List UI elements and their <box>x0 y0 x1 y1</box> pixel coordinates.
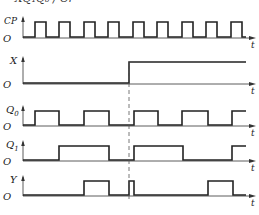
time-label: t <box>251 198 255 208</box>
origin-label: O <box>3 79 11 90</box>
time-label: t <box>251 40 255 50</box>
q0-label: Q0 <box>6 104 19 118</box>
arrow-up-icon <box>21 56 25 62</box>
arrow-up-icon <box>21 175 25 181</box>
origin-label: O <box>3 33 11 44</box>
arrow-up-icon <box>21 105 25 111</box>
origin-label: O <box>3 191 11 202</box>
y-label: Y <box>10 174 18 185</box>
origin-label: O <box>3 121 11 132</box>
origin-label: O <box>3 156 11 167</box>
time-label: t <box>251 128 255 138</box>
y-waveform <box>23 181 246 195</box>
x-label: X <box>9 55 18 66</box>
arrow-up-icon <box>21 16 25 22</box>
cp-waveform <box>23 22 246 37</box>
q1-waveform <box>23 146 246 160</box>
time-label: t <box>251 86 255 96</box>
arrow-up-icon <box>21 140 25 146</box>
q1-label: Q1 <box>6 139 19 153</box>
cp-label: CP <box>4 16 18 26</box>
x-waveform <box>23 62 246 83</box>
time-label: t <box>251 163 255 173</box>
timing-diagram: OCPtOXtOQ0tOQ1tOYt <box>0 0 259 215</box>
q0-waveform <box>23 111 246 125</box>
